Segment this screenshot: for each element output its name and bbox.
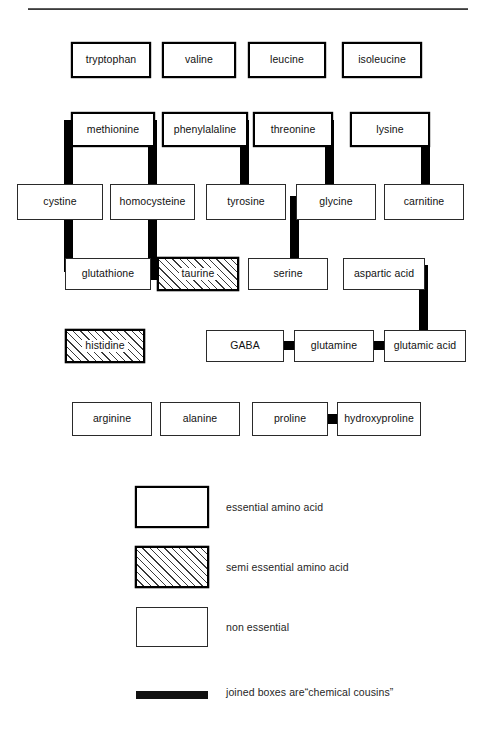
node-homocysteine[interactable]: homocysteine xyxy=(110,184,195,220)
node-label: arginine xyxy=(93,413,131,424)
node-label: GABA xyxy=(230,340,260,351)
legend-label-connector: joined boxes are“chemical cousins” xyxy=(226,686,393,698)
node-serine[interactable]: serine xyxy=(248,258,328,290)
node-label: tryptophan xyxy=(86,54,137,65)
node-label: histidine xyxy=(82,340,127,351)
legend-label-semi_essential: semi essential amino acid xyxy=(226,561,349,573)
node-isoleucine[interactable]: isoleucine xyxy=(343,43,421,77)
node-taurine[interactable]: taurine xyxy=(158,258,238,290)
node-tyrosine[interactable]: tyrosine xyxy=(206,184,286,220)
node-label: tyrosine xyxy=(227,196,265,207)
node-glutathione[interactable]: glutathione xyxy=(65,258,151,290)
node-label: methionine xyxy=(87,124,139,135)
node-histidine[interactable]: histidine xyxy=(66,330,144,362)
node-aspartic_acid[interactable]: aspartic acid xyxy=(343,258,425,290)
node-label: glycine xyxy=(319,196,352,207)
node-label: alanine xyxy=(183,413,218,424)
node-label: cystine xyxy=(43,196,76,207)
node-methionine[interactable]: methionine xyxy=(72,113,154,146)
node-label: aspartic acid xyxy=(354,268,414,279)
node-label: taurine xyxy=(179,268,218,279)
node-label: carnitine xyxy=(404,196,445,207)
legend-swatch-semi_essential xyxy=(136,547,208,587)
node-label: leucine xyxy=(270,54,304,65)
diagram-canvas: tryptophanvalineleucineisoleucinemethion… xyxy=(0,0,484,733)
node-proline[interactable]: proline xyxy=(252,402,328,436)
node-hydroxyproline[interactable]: hydroxyproline xyxy=(337,402,421,436)
node-cystine[interactable]: cystine xyxy=(17,184,103,220)
legend-swatch-essential xyxy=(136,487,208,527)
node-label: glutamic acid xyxy=(394,340,457,351)
node-lysine[interactable]: lysine xyxy=(351,113,429,146)
node-label: hydroxyproline xyxy=(344,413,414,424)
node-arginine[interactable]: arginine xyxy=(72,402,152,436)
node-phenylalaline[interactable]: phenylalaline xyxy=(163,113,247,146)
node-label: isoleucine xyxy=(358,54,406,65)
node-label: proline xyxy=(274,413,306,424)
node-carnitine[interactable]: carnitine xyxy=(384,184,464,220)
node-gaba[interactable]: GABA xyxy=(206,330,284,362)
node-leucine[interactable]: leucine xyxy=(249,43,325,77)
node-label: valine xyxy=(185,54,213,65)
node-glycine[interactable]: glycine xyxy=(296,184,376,220)
node-label: homocysteine xyxy=(120,196,186,207)
node-label: phenylalaline xyxy=(174,124,237,135)
node-label: serine xyxy=(273,268,302,279)
node-valine[interactable]: valine xyxy=(163,43,235,77)
node-glutamine[interactable]: glutamine xyxy=(294,330,374,362)
node-alanine[interactable]: alanine xyxy=(160,402,240,436)
node-label: glutathione xyxy=(82,268,134,279)
node-glutamic_acid[interactable]: glutamic acid xyxy=(384,330,466,362)
top-divider-rule xyxy=(28,8,468,10)
legend-label-non_essential: non essential xyxy=(226,621,289,633)
legend-label-essential: essential amino acid xyxy=(226,501,323,513)
node-label: glutamine xyxy=(311,340,357,351)
legend-swatch-non_essential xyxy=(136,607,208,647)
node-tryptophan[interactable]: tryptophan xyxy=(72,43,150,77)
node-threonine[interactable]: threonine xyxy=(254,113,332,146)
node-label: threonine xyxy=(271,124,316,135)
legend-swatch-connector xyxy=(136,691,208,699)
node-label: lysine xyxy=(376,124,403,135)
